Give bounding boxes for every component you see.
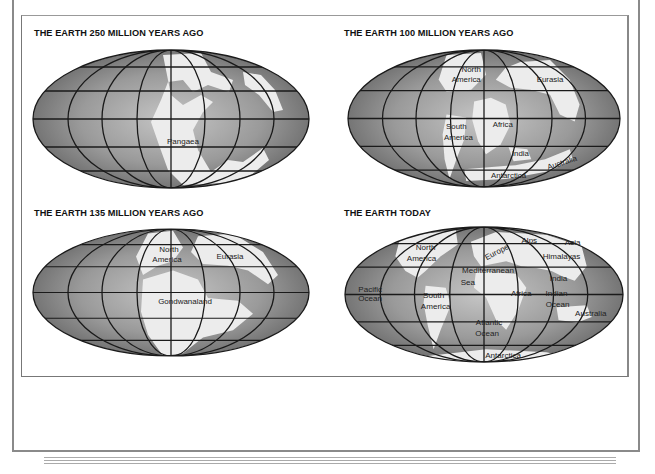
label-pangaea: Pangaea [167, 137, 200, 146]
label-america: America [452, 75, 481, 84]
label-antarctica: Antarctica [485, 351, 521, 360]
label-gondwanaland: Gondwanaland [158, 298, 212, 307]
globe-map-135mya: North America Eurasia Gondwanaland [33, 229, 309, 356]
label-india: India [550, 274, 568, 283]
label-south: South [423, 292, 444, 301]
globe-map-100mya: North America Eurasia South America Afri… [348, 50, 620, 187]
label-ocean: Ocean [546, 300, 570, 309]
page-stack-line [44, 460, 616, 461]
panel-title-250mya: THE EARTH 250 MILLION YEARS AGO [34, 28, 204, 38]
label-atlantic: Atlantic [476, 318, 502, 327]
globe-map-today: North America Europe Alps Asia Himalayas… [345, 227, 623, 362]
label-africa: Africa [511, 290, 532, 299]
label-ocean: Ocean [475, 329, 499, 338]
label-eurasia: Eurasia [216, 253, 244, 262]
label-north: North [416, 244, 436, 253]
label-north: North [159, 245, 179, 254]
panel-title-today: THE EARTH TODAY [344, 208, 431, 218]
page-stack-line [44, 457, 616, 458]
label-india: India [512, 149, 530, 158]
label-antarctica: Antarctica [491, 171, 527, 180]
label-pacific: Pacific [358, 285, 382, 294]
label-north: North [462, 65, 481, 74]
label-south: South [446, 122, 467, 131]
label-indian: Indian [546, 290, 568, 299]
label-mediterranean: Mediterranean [462, 266, 514, 275]
globe-map-250mya: Pangaea [33, 50, 309, 188]
label-ocean: Ocean [358, 294, 382, 303]
label-america: America [152, 255, 182, 264]
label-america: America [444, 133, 473, 142]
label-alps: Alps [521, 236, 537, 245]
panel-title-100mya: THE EARTH 100 MILLION YEARS AGO [344, 28, 514, 38]
label-america: America [407, 254, 437, 263]
label-eurasia: Eurasia [537, 75, 564, 84]
page-stack-line [44, 463, 616, 464]
label-america: America [421, 302, 451, 311]
label-asia: Asia [565, 238, 581, 247]
panel-title-135mya: THE EARTH 135 MILLION YEARS AGO [34, 208, 204, 218]
label-sea: Sea [461, 278, 476, 287]
label-australia: Australia [575, 309, 607, 318]
label-africa: Africa [493, 120, 514, 129]
label-himalayas: Himalayas [543, 252, 581, 261]
